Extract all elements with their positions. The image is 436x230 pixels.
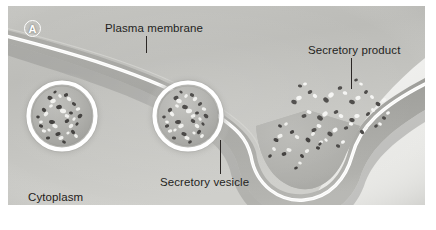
- plasma-membrane-leader-line: [146, 36, 147, 53]
- secretory-vesicle-leader-line: [220, 140, 221, 174]
- label-secretory-product: Secretory product: [308, 44, 400, 57]
- figure-root: A Plasma membrane Secretory product Secr…: [0, 0, 436, 230]
- label-plasma-membrane: Plasma membrane: [105, 22, 203, 35]
- label-cytoplasm: Cytoplasm: [28, 191, 83, 204]
- secretory-product-leader-line: [351, 58, 352, 89]
- panel-letter-badge: A: [24, 20, 41, 37]
- label-secretory-vesicle: Secretory vesicle: [160, 176, 249, 189]
- illustration-panel: A Plasma membrane Secretory product Secr…: [8, 6, 425, 205]
